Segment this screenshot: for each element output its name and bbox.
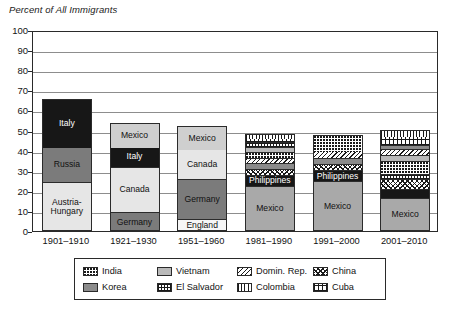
bar-segment: Philippines (314, 171, 362, 182)
bar-segment (314, 159, 362, 166)
bar-segment-label: England (186, 221, 218, 230)
bar-segment-label: Germany (117, 218, 152, 227)
bar-segment: Canada (178, 150, 226, 180)
y-tick-label: 30 (2, 166, 28, 177)
bar-segment-label: Mexico (189, 134, 216, 143)
y-tick-mark (28, 212, 32, 213)
bar-stack: Mexico (380, 130, 430, 231)
gridline (33, 213, 437, 214)
y-tick-mark (28, 91, 32, 92)
plot-area: ItalyRussiaAustria-HungaryMexicoItalyCan… (32, 31, 438, 232)
legend-label: Colombia (256, 282, 295, 292)
bar-segment-label: Philippines (317, 172, 359, 181)
bar-segment (381, 180, 429, 191)
chart-figure: Percent of All Immigrants ItalyRussiaAus… (0, 0, 449, 311)
bar-stack: PhilippinesMexico (245, 134, 295, 231)
bar-segment-label: Mexico (121, 131, 148, 140)
bar-segment-label: Mexico (256, 204, 283, 213)
bar-segment: Philippines (246, 176, 294, 186)
y-tick-label: 20 (2, 186, 28, 197)
bar-segment-label: Italy (127, 152, 143, 161)
legend-item: El Salvador (157, 282, 237, 292)
legend-item: Colombia (237, 282, 313, 292)
bar-segment (381, 162, 429, 175)
y-tick-label: 50 (2, 126, 28, 137)
legend-swatch (237, 283, 252, 292)
bar-stack: PhilippinesMexico (313, 135, 363, 231)
y-tick-mark (28, 152, 32, 153)
bar-stack: MexicoCanadaGermanyEngland (177, 126, 227, 231)
bar-segment: Mexico (178, 127, 226, 150)
bar-segment: Germany (111, 213, 159, 231)
legend-item: Domin. Rep. (237, 266, 313, 276)
y-tick-label: 100 (2, 25, 28, 36)
y-tick-label: 90 (2, 45, 28, 56)
gridline (33, 193, 437, 194)
y-tick-mark (28, 172, 32, 173)
legend-swatch (157, 267, 172, 276)
legend-swatch (313, 267, 328, 276)
legend-label: Korea (102, 282, 127, 292)
legend-label: Domin. Rep. (256, 266, 307, 276)
y-tick-mark (28, 132, 32, 133)
y-tick-label: 0 (2, 226, 28, 237)
bar-segment (314, 136, 362, 152)
bar-stack: ItalyRussiaAustria-Hungary (42, 99, 92, 231)
y-tick-mark (28, 71, 32, 72)
legend-swatch (157, 283, 172, 292)
bar-segment-label: Russia (54, 160, 80, 169)
bar-segment (381, 137, 429, 145)
bar-segment-label: Philippines (249, 176, 291, 185)
gridline (33, 52, 437, 53)
legend-item: Vietnam (157, 266, 237, 276)
y-tick-mark (28, 51, 32, 52)
bar-segment-label: Canada (187, 160, 217, 169)
y-tick-label: 80 (2, 65, 28, 76)
y-tick-label: 60 (2, 105, 28, 116)
bar-segment: Austria-Hungary (43, 183, 91, 231)
gridline (33, 173, 437, 174)
bar-segment: Mexico (246, 187, 294, 231)
y-tick-label: 40 (2, 146, 28, 157)
bar-segment: Mexico (381, 199, 429, 231)
bar-segment (381, 190, 429, 199)
legend-item: Cuba (313, 282, 354, 292)
y-tick-label: 10 (2, 206, 28, 217)
legend-label: India (102, 266, 122, 276)
gridline (33, 72, 437, 73)
bar-segment-label: Austria-Hungary (51, 198, 83, 217)
bar-segment: Germany (178, 180, 226, 220)
gridline (33, 153, 437, 154)
gridline (33, 112, 437, 113)
bar-segment-label: Germany (184, 195, 219, 204)
y-tick-label: 70 (2, 85, 28, 96)
bar-segment: Italy (43, 100, 91, 147)
bar-segment: Russia (43, 148, 91, 183)
x-tick-label: 2001–2010 (364, 236, 444, 246)
legend-label: Cuba (332, 282, 354, 292)
legend-swatch (313, 283, 328, 292)
legend-label: Vietnam (176, 266, 210, 276)
gridline (33, 92, 437, 93)
legend: IndiaVietnamDomin. Rep.China KoreaEl Sal… (74, 258, 386, 300)
y-tick-mark (28, 31, 32, 32)
legend-label: El Salvador (176, 282, 223, 292)
bar-segment-label: Mexico (392, 210, 419, 219)
bar-segment: Canada (111, 168, 159, 214)
legend-item: India (83, 266, 157, 276)
bar-segment: England (178, 220, 226, 231)
bar-segment-label: Canada (119, 185, 149, 194)
legend-item: China (313, 266, 356, 276)
y-axis-title: Percent of All Immigrants (9, 4, 117, 15)
legend-label: China (332, 266, 356, 276)
bar-segment: Mexico (111, 124, 159, 148)
bar-segment-label: Mexico (324, 202, 351, 211)
legend-row: IndiaVietnamDomin. Rep.China (83, 263, 379, 279)
bar-segment: Mexico (314, 182, 362, 231)
legend-row: KoreaEl SalvadorColombiaCuba (83, 279, 379, 295)
legend-swatch (83, 267, 98, 276)
y-tick-mark (28, 232, 32, 233)
legend-item: Korea (83, 282, 157, 292)
bar-stack: MexicoItalyCanadaGermany (110, 123, 160, 231)
legend-swatch (83, 283, 98, 292)
